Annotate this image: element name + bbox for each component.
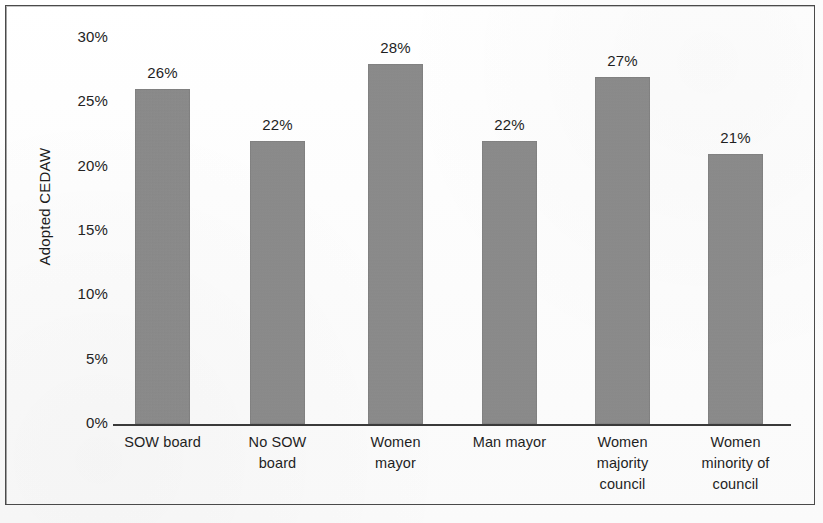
x-axis-category-label-line: Man mayor [451, 432, 569, 453]
x-axis-category-label: No SOWboard [219, 432, 337, 474]
x-axis-line [113, 424, 791, 426]
y-axis-tick-label: 5% [52, 350, 108, 367]
x-axis-category-label-line: council [677, 474, 795, 495]
y-axis-title: Adopted CEDAW [36, 127, 53, 287]
x-axis-category-label-line: council [564, 474, 682, 495]
x-axis-category-label: Womenmayor [337, 432, 455, 474]
x-axis-category-label: SOW board [104, 432, 222, 453]
y-axis-tick-label: 30% [52, 28, 108, 45]
x-axis-category-label-line: mayor [337, 453, 455, 474]
x-axis-category-label: Womenmajoritycouncil [564, 432, 682, 495]
y-axis-tick-labels: 0%5%10%15%20%25%30% [52, 0, 108, 523]
x-axis-category-label-line: Women [337, 432, 455, 453]
bar [482, 141, 537, 424]
x-axis-category-label-line: SOW board [104, 432, 222, 453]
x-axis-category-label-line: board [219, 453, 337, 474]
bar-value-label: 21% [691, 129, 781, 146]
bar [368, 64, 423, 424]
y-axis-tick-label: 10% [52, 285, 108, 302]
plot-area: Adopted CEDAW 0%5%10%15%20%25%30% 26%22%… [0, 0, 823, 523]
y-axis-tick-label: 25% [52, 92, 108, 109]
x-axis-category-label-line: No SOW [219, 432, 337, 453]
chart-figure: Adopted CEDAW 0%5%10%15%20%25%30% 26%22%… [0, 0, 823, 523]
bar-value-label: 22% [465, 116, 555, 133]
x-axis-category-label: Man mayor [451, 432, 569, 453]
x-axis-category-label: Womenminority ofcouncil [677, 432, 795, 495]
bar-value-label: 27% [578, 52, 668, 69]
x-axis-category-label-line: Women [564, 432, 682, 453]
bar [595, 77, 650, 424]
bar-value-label: 22% [233, 116, 323, 133]
bar [250, 141, 305, 424]
x-axis-category-label-line: minority of [677, 453, 795, 474]
bar-value-label: 26% [118, 64, 208, 81]
y-axis-tick-label: 20% [52, 157, 108, 174]
bar [135, 89, 190, 424]
bar-value-label: 28% [351, 39, 441, 56]
x-axis-category-label-line: majority [564, 453, 682, 474]
y-axis-tick-label: 0% [52, 414, 108, 431]
x-axis-category-label-line: Women [677, 432, 795, 453]
y-axis-tick-label: 15% [52, 221, 108, 238]
bar [708, 154, 763, 424]
